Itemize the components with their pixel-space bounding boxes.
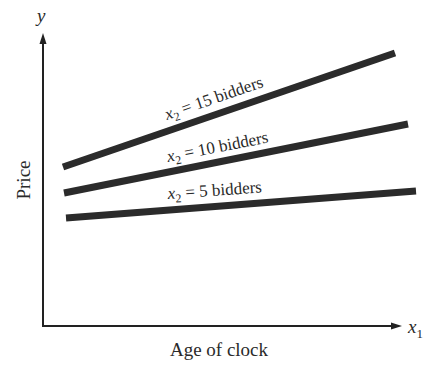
x-axis-arrow-icon — [391, 323, 402, 330]
y-axis-label: Price — [13, 160, 34, 199]
y-axis-symbol: y — [35, 5, 46, 26]
x-axis-label: Age of clock — [170, 339, 269, 360]
chart: y x1 Age of clock Price x2 = 15 bidders … — [0, 0, 433, 365]
x-axis-symbol: x1 — [407, 316, 423, 341]
y-axis-arrow-icon — [40, 33, 47, 44]
